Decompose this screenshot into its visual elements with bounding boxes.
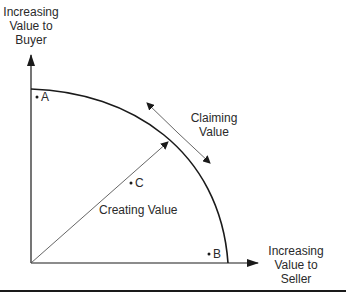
x-axis-label-line: Value to [262, 258, 330, 272]
point-b-label: B [213, 247, 221, 261]
point-c-label: C [135, 176, 144, 190]
claiming-value-line: Claiming [186, 111, 242, 125]
y-axis-label-line: Buyer [0, 33, 62, 47]
y-axis-label-line: Increasing [0, 5, 62, 19]
claiming-value-line: Value [186, 125, 242, 139]
point-b-dot [208, 253, 211, 256]
claiming-value-label: Claiming Value [186, 111, 242, 139]
x-axis-label-line: Increasing [262, 244, 330, 258]
y-axis-label: Increasing Value to Buyer [0, 5, 62, 47]
point-a-label: A [41, 90, 49, 104]
point-c-dot [130, 182, 133, 185]
creating-value-label: Creating Value [99, 203, 178, 217]
x-axis-label-line: Seller [262, 272, 330, 286]
x-axis-label: Increasing Value to Seller [262, 244, 330, 286]
y-axis-label-line: Value to [0, 19, 62, 33]
point-a-dot [36, 96, 39, 99]
claiming-value-arrow [147, 103, 178, 133]
